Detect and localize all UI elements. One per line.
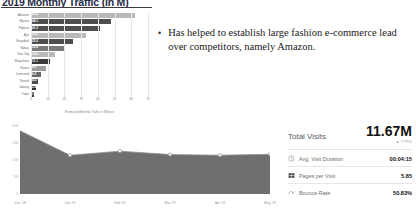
bar-chart-bar: 33.0 bbox=[31, 33, 86, 38]
bar-chart-x-tick: 0 bbox=[30, 98, 32, 101]
bar-chart-category-label: Nykaa bbox=[20, 47, 29, 50]
bar-chart-x-tick: 30 bbox=[79, 98, 82, 101]
area-chart-x-tick: Jan 19 bbox=[65, 202, 76, 206]
bar-chart-x-tick: 50 bbox=[113, 98, 116, 101]
total-visits-summary: Total Visits 11.67M ▲ 7.79% bbox=[288, 124, 412, 149]
metric-row: Bounce Rate50.83% bbox=[288, 183, 412, 200]
bar-chart-x-tick: 10 bbox=[46, 98, 49, 101]
bounce-icon bbox=[288, 189, 295, 196]
bar-chart-gridline bbox=[131, 12, 132, 98]
area-chart-x-tick: Feb 19 bbox=[114, 202, 125, 206]
bar-chart-gridline bbox=[81, 12, 82, 98]
monthly-traffic-bar-chart: Amazon62.4Myntra48.1Flipkart41.3Ajio33.0… bbox=[2, 10, 152, 116]
bar-chart-category-label: Shopclues bbox=[15, 60, 29, 63]
area-chart-x-tick: May 19 bbox=[264, 202, 276, 206]
area-chart-y-tick: 15M bbox=[12, 142, 18, 145]
metric-row-label-group: Pages per Visit bbox=[288, 172, 335, 179]
bar-chart-gridline bbox=[64, 12, 65, 98]
area-chart-x-tick: Dec 18 bbox=[14, 202, 25, 206]
total-visits-value: 11.67M bbox=[366, 124, 412, 138]
bar-chart-bar: 6.2 bbox=[31, 72, 41, 77]
metric-value: 5.85 bbox=[401, 173, 412, 179]
bar-chart-x-axis: 010203040506070 bbox=[31, 98, 148, 104]
metric-value: 50.83% bbox=[393, 190, 412, 196]
metric-name: Avg. Visit Duration bbox=[299, 156, 343, 162]
bar-chart-gridline bbox=[98, 12, 99, 98]
bar-chart-bar: 41.3 bbox=[31, 26, 100, 31]
bar-chart-value-label: 8.8 bbox=[32, 67, 36, 70]
bar-chart-value-label: 62.4 bbox=[32, 14, 38, 17]
area-chart-y-tick: 0 bbox=[16, 193, 18, 196]
area-chart-data-point bbox=[268, 153, 270, 156]
metric-name: Bounce Rate bbox=[299, 190, 330, 196]
metric-name: Pages per Visit bbox=[299, 173, 335, 179]
area-chart-data-point bbox=[68, 154, 71, 157]
metric-row-label-group: Bounce Rate bbox=[288, 189, 330, 196]
bar-chart-bar: 25.2 bbox=[31, 39, 73, 44]
metrics-panel: Total Visits 11.67M ▲ 7.79% Avg. Visit D… bbox=[288, 124, 412, 200]
bar-chart-value-label: 20.4 bbox=[32, 47, 38, 50]
metric-row-label-group: Avg. Visit Duration bbox=[288, 155, 343, 162]
bullet-marker-icon: • bbox=[158, 26, 161, 40]
bar-chart-bar: 8.8 bbox=[31, 66, 46, 71]
slide-canvas: 2019 Monthly Traffic (in M) Amazon62.4My… bbox=[0, 0, 416, 212]
metric-value: 00:04:15 bbox=[390, 156, 412, 162]
bar-chart-gridline bbox=[148, 12, 149, 98]
bar-chart-plot-area: Amazon62.4Myntra48.1Flipkart41.3Ajio33.0… bbox=[31, 12, 148, 98]
bar-chart-value-label: 48.1 bbox=[32, 20, 38, 23]
bar-chart-x-axis-title: Estimated Monthly Traffic in Millions bbox=[31, 111, 148, 114]
bar-chart-category-label: Voonik bbox=[20, 80, 29, 83]
bar-chart-category-label: Snapdeal bbox=[16, 40, 29, 43]
bar-chart-bar: 62.4 bbox=[31, 13, 135, 18]
bar-chart-value-label: 4.4 bbox=[32, 80, 36, 83]
area-chart-y-tick: 10M bbox=[12, 159, 18, 162]
list-item: • Has helped to establish large fashion … bbox=[158, 26, 408, 54]
bar-chart-category-label: Ajio bbox=[24, 34, 29, 37]
bar-chart-category-label: Koovs bbox=[20, 67, 29, 70]
area-chart-y-tick: 20M bbox=[12, 125, 18, 128]
area-chart-x-tick: Mar 19 bbox=[164, 202, 175, 206]
bar-chart-value-label: 11.1 bbox=[32, 60, 38, 63]
area-chart-data-point bbox=[218, 154, 221, 157]
area-chart-x-tick: Apr 19 bbox=[215, 202, 226, 206]
bar-chart-category-label: Flipkart bbox=[19, 27, 29, 30]
clock-icon bbox=[288, 155, 295, 162]
total-visits-delta: ▲ 7.79% bbox=[366, 140, 412, 144]
bar-chart-gridline bbox=[115, 12, 116, 98]
bar-chart-category-label: Tadai bbox=[22, 93, 29, 96]
area-chart-y-tick: 5M bbox=[14, 176, 18, 179]
bar-chart-value-label: 33.0 bbox=[32, 34, 38, 37]
bar-chart-value-label: 41.3 bbox=[32, 27, 38, 30]
bar-chart-category-label: Tata Cliq bbox=[17, 53, 29, 56]
bar-chart-value-label: 14.6 bbox=[32, 53, 38, 56]
bar-chart-value-label: 2.9 bbox=[32, 86, 36, 89]
metrics-rows: Avg. Visit Duration00:04:15Pages per Vis… bbox=[288, 149, 412, 200]
bar-chart-gridline bbox=[31, 12, 32, 98]
bar-chart-x-tick: 40 bbox=[96, 98, 99, 101]
bar-chart-category-label: Jabong bbox=[19, 86, 29, 89]
visits-trend-area-chart: 20M15M10M5M0 Dec 18Jan 19Feb 19Mar 19Apr… bbox=[4, 126, 272, 210]
bar-chart-value-label: 1.5 bbox=[32, 93, 36, 96]
area-chart-fill bbox=[20, 131, 270, 194]
bar-chart-gridline bbox=[48, 12, 49, 98]
bar-chart-bar: 4.4 bbox=[31, 79, 38, 84]
bullet-list: • Has helped to establish large fashion … bbox=[158, 26, 408, 54]
bar-chart-value-label: 6.2 bbox=[32, 73, 36, 76]
bar-chart-x-tick: 60 bbox=[130, 98, 133, 101]
bar-chart-bar: 14.6 bbox=[31, 52, 55, 57]
area-chart-data-point bbox=[118, 150, 121, 153]
metric-row: Avg. Visit Duration00:04:15 bbox=[288, 149, 412, 166]
bar-chart-category-label: Myntra bbox=[20, 20, 29, 23]
total-visits-value-group: 11.67M ▲ 7.79% bbox=[366, 124, 412, 144]
metric-row: Pages per Visit5.85 bbox=[288, 166, 412, 183]
bar-chart-x-tick: 70 bbox=[146, 98, 149, 101]
bar-chart-x-tick: 20 bbox=[63, 98, 66, 101]
title-underline bbox=[1, 7, 152, 8]
bar-chart-value-label: 25.2 bbox=[32, 40, 38, 43]
bar-chart-category-label: Amazon bbox=[18, 14, 29, 17]
total-visits-label: Total Visits bbox=[288, 132, 326, 144]
bar-chart-category-label: Limeroad bbox=[16, 73, 29, 76]
area-chart-plot-area: 20M15M10M5M0 bbox=[20, 126, 270, 194]
area-chart-data-point bbox=[168, 153, 171, 156]
bullet-text: Has helped to establish large fashion e-… bbox=[168, 26, 408, 54]
